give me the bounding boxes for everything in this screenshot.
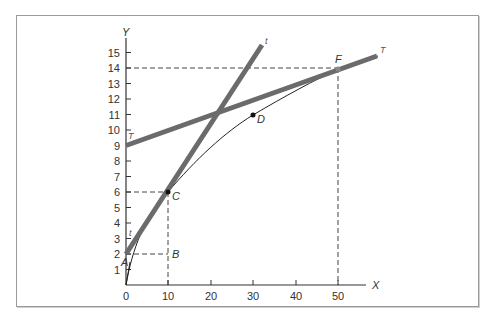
- label-T-left: T: [128, 131, 135, 141]
- y-tick-label: 2: [114, 248, 120, 260]
- x-tick-label: 10: [162, 290, 174, 302]
- y-tick-label: 12: [108, 93, 120, 105]
- x-tick-label: 20: [205, 290, 217, 302]
- y-tick-label: 7: [114, 171, 120, 183]
- label-B: B: [172, 248, 179, 260]
- y-axis-title: Y: [122, 26, 130, 38]
- point-C: [166, 190, 171, 195]
- label-T-right: T: [380, 45, 387, 55]
- x-tick-label: 0: [123, 290, 129, 302]
- x-tick-labels: 0 10 20 30 40 50: [123, 290, 344, 302]
- label-C: C: [172, 190, 180, 202]
- label-t-lower: t: [129, 228, 132, 238]
- x-axis-title: X: [371, 279, 380, 291]
- y-tick-label: 1: [114, 264, 120, 276]
- y-tick-label: 9: [114, 140, 120, 152]
- y-tick-label: 4: [114, 217, 120, 229]
- point-D: [251, 113, 256, 118]
- label-F: F: [335, 53, 343, 65]
- y-tick-label: 5: [114, 202, 120, 214]
- x-tick-label: 40: [290, 290, 302, 302]
- y-tick-label: 11: [109, 109, 120, 121]
- point-F: [336, 67, 341, 72]
- y-tick-label: 13: [108, 78, 120, 90]
- diagram-canvas: 1 2 3 4 5 6 7 8 9 10 11 12 13 14 15 0 10…: [0, 0, 488, 318]
- y-tick-label: 15: [108, 47, 120, 59]
- y-tick-label: 3: [114, 233, 120, 245]
- x-tick-label: 30: [247, 290, 259, 302]
- y-tick-label: 10: [108, 124, 120, 136]
- x-tick-label: 50: [332, 290, 344, 302]
- line-t: [126, 45, 262, 254]
- dashed-guides: [126, 68, 338, 285]
- x-ticks: [168, 280, 338, 285]
- label-t-top: t: [265, 36, 268, 46]
- label-A: A: [120, 256, 128, 268]
- y-tick-labels: 1 2 3 4 5 6 7 8 9 10 11 12 13 14 15: [108, 47, 120, 276]
- curve: [126, 56, 378, 285]
- y-tick-label: 6: [114, 186, 120, 198]
- label-D: D: [257, 113, 265, 125]
- y-tick-label: 8: [114, 155, 120, 167]
- y-tick-label: 14: [108, 62, 120, 74]
